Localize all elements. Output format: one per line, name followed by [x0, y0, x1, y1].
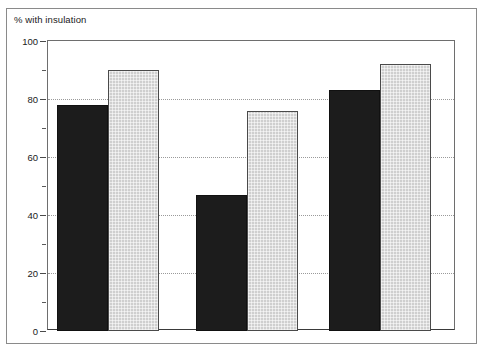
bar-owner-occupied-series-1: [329, 90, 380, 331]
ytick-minor-50: [42, 186, 46, 187]
ytick-minor-90: [42, 70, 46, 71]
y-axis-label-100: 100: [22, 36, 38, 47]
y-axis-label-60: 60: [27, 152, 38, 163]
bar-owner-occupied-series-2: [380, 64, 431, 331]
bar-la-rented-series-1: [57, 105, 108, 331]
bar-private-rented-series-1: [196, 195, 247, 331]
y-axis-label-20: 20: [27, 268, 38, 279]
ytick-minor-10: [42, 302, 46, 303]
chart-title: % with insulation: [14, 14, 86, 25]
bar-private-rented-series-2: [247, 111, 298, 331]
ytick-major-60: [40, 157, 46, 158]
y-axis-label-80: 80: [27, 94, 38, 105]
ytick-major-0: [40, 331, 46, 332]
plot-area: 100806040200LA rentedPrivate rentedOwner…: [47, 40, 455, 330]
bar-la-rented-series-2: [108, 70, 159, 331]
ytick-major-100: [40, 41, 46, 42]
y-axis-label-40: 40: [27, 210, 38, 221]
ytick-major-80: [40, 99, 46, 100]
ytick-major-40: [40, 215, 46, 216]
chart-figure: % with insulation 100806040200LA rentedP…: [0, 0, 485, 352]
y-axis-label-0: 0: [33, 326, 38, 337]
ytick-major-20: [40, 273, 46, 274]
ytick-minor-30: [42, 244, 46, 245]
ytick-minor-70: [42, 128, 46, 129]
